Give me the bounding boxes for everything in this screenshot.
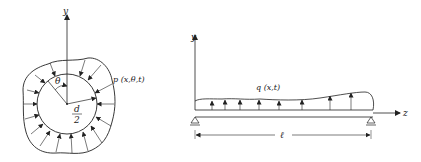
diagram-canvas: y θ d (0, 0, 421, 162)
y-axis-label-left: y (62, 6, 69, 16)
load-label: q (x,t) (256, 83, 280, 92)
theta-label: θ (55, 76, 61, 86)
load-arrows (212, 93, 351, 110)
pressure-label: p (x,θ,t) (113, 75, 145, 84)
pipe-cross-section: y θ d (23, 6, 145, 153)
radius-numerator: d (74, 104, 80, 114)
right-support (366, 117, 376, 125)
y-axis-label-right: y (190, 32, 197, 42)
beam-diagram: y q (x,t) z (190, 32, 408, 140)
length-label: ℓ (280, 130, 284, 140)
z-axis-label: z (402, 108, 408, 118)
radius-arrow (67, 98, 96, 104)
left-support (190, 117, 200, 125)
theta-arc (55, 86, 67, 91)
center-point (66, 103, 68, 105)
load-distribution-curve (195, 92, 374, 110)
radius-denominator: 2 (73, 115, 80, 125)
